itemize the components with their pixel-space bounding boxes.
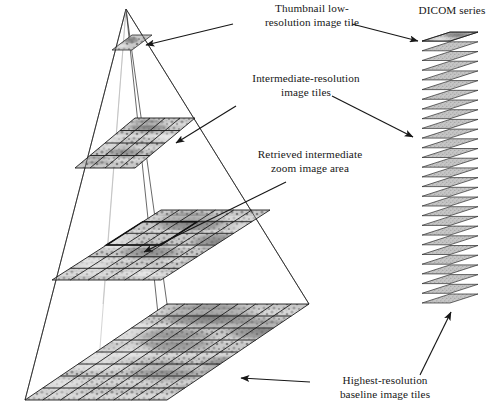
label-dicom-series: DICOM series xyxy=(406,4,498,18)
dicom-top-slice-content xyxy=(422,32,478,42)
arrow-intermediate-to-dicom xyxy=(332,96,413,137)
label-thumbnail-low-resolution-image-tile: Thumbnail low- resolution image tile xyxy=(236,2,388,29)
intermediate-tile-layer-a xyxy=(60,118,210,168)
arrow-baseline-to-dicom xyxy=(420,312,451,375)
label-highest-resolution-baseline-image-tiles: Highest-resolution baseline image tiles xyxy=(312,374,458,401)
baseline-tile-layer xyxy=(10,301,330,400)
figure-canvas: Thumbnail low- resolution image tile Int… xyxy=(0,0,498,420)
label-intermediate-resolution-image-tiles: Intermediate-resolution image tiles xyxy=(226,72,386,99)
dicom-series-stack xyxy=(422,32,478,303)
thumbnail-tile-layer xyxy=(112,35,152,50)
pyramid-dicom-diagram xyxy=(0,0,498,420)
label-retrieved-intermediate-zoom-image-area: Retrieved intermediate zoom image area xyxy=(232,148,388,175)
arrow-highest-to-tiles xyxy=(241,378,310,382)
arrow-thumbnail-to-tile xyxy=(146,24,233,45)
intermediate-tile-layer-b xyxy=(40,210,285,280)
dicom-slices xyxy=(422,32,478,303)
